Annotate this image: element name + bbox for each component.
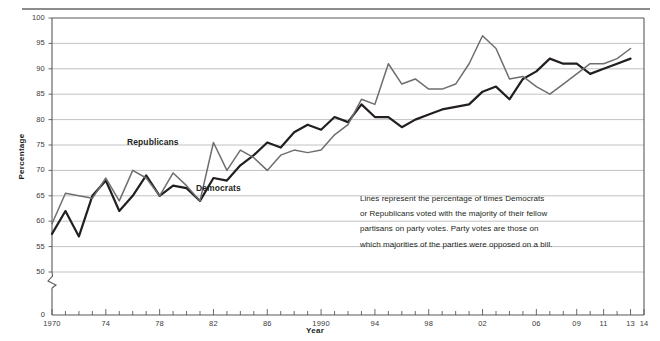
y-tick-label-75: 75 (19, 141, 45, 149)
x-tick-label-2014: 14 (628, 320, 660, 328)
chart-annotation-note: Lines represent the percentage of times … (360, 191, 628, 252)
x-tick-label-1986: 86 (251, 320, 283, 328)
y-tick-label-80: 80 (19, 116, 45, 124)
y-tick-label-65: 65 (19, 192, 45, 200)
y-axis-break-marker (48, 272, 56, 288)
x-tick-label-2002: 02 (467, 320, 499, 328)
y-tick-label-100: 100 (19, 14, 45, 22)
y-tick-label-85: 85 (19, 90, 45, 98)
y-tick-label-0: 0 (19, 311, 45, 319)
x-tick-label-1978: 78 (144, 320, 176, 328)
line-chart-plot (0, 0, 660, 341)
y-tick-label-90: 90 (19, 65, 45, 73)
y-tick-label-50: 50 (19, 268, 45, 276)
y-tick-label-70: 70 (19, 166, 45, 174)
x-tick-label-1998: 98 (413, 320, 445, 328)
annotation-line-1: Lines represent the percentage of times … (360, 191, 628, 206)
chart-figure: Percentage Year Republicans Democrats Li… (0, 0, 660, 341)
x-tick-label-1970: 1970 (36, 320, 68, 328)
x-tick-label-1974: 74 (90, 320, 122, 328)
series-label-democrats: Democrats (196, 183, 241, 193)
series-label-republicans: Republicans (127, 137, 179, 147)
y-tick-label-95: 95 (19, 39, 45, 47)
annotation-line-3: partisans on party votes. Party votes ar… (360, 221, 628, 236)
x-tick-label-1982: 82 (197, 320, 229, 328)
y-axis-title: Percentage (17, 117, 26, 197)
x-tick-label-2006: 06 (520, 320, 552, 328)
x-tick-label-1994: 94 (359, 320, 391, 328)
y-tick-label-55: 55 (19, 243, 45, 251)
x-tick-label-1990: 1990 (305, 320, 337, 328)
y-tick-label-60: 60 (19, 217, 45, 225)
annotation-line-4: which majorities of the parties were opp… (360, 237, 628, 252)
annotation-line-2: or Republicans voted with the majority o… (360, 206, 628, 221)
